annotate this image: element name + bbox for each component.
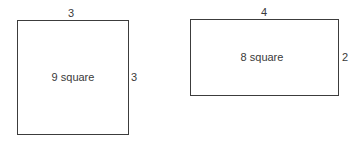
rectangle-area-label: 8 square (241, 51, 284, 63)
rectangle-side-label: 2 (342, 51, 348, 63)
square-side-label: 3 (131, 71, 137, 83)
square-top-label: 3 (68, 7, 74, 19)
square-area-label: 9 square (52, 71, 95, 83)
rectangle-top-label: 4 (261, 6, 267, 18)
